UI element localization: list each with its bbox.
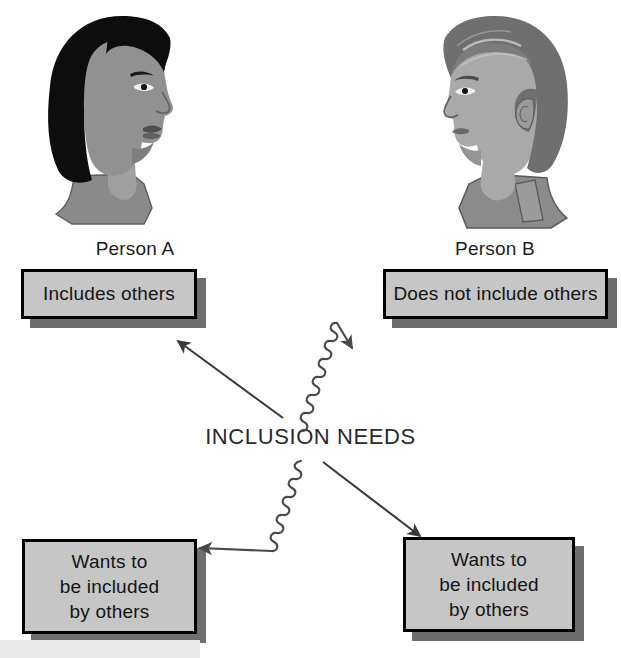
box-includes-others: Includes others	[21, 269, 197, 319]
scan-artifact	[0, 640, 200, 658]
arrow-down-left	[200, 461, 301, 551]
box-wants-to-be-included-left-text: Wants tobe includedby others	[54, 549, 165, 624]
center-label: INCLUSION NEEDS	[0, 424, 621, 450]
box-wants-to-be-included-left: Wants tobe includedby others	[22, 539, 197, 634]
box-does-not-include-others-text: Does not include others	[387, 281, 603, 306]
person-b-label: Person B	[415, 238, 575, 260]
arrow-up-right	[301, 323, 352, 431]
person-a-label: Person A	[55, 238, 215, 260]
box-includes-others-text: Includes others	[37, 281, 181, 306]
woman-profile-facing-right-icon	[12, 8, 227, 233]
box-does-not-include-others: Does not include others	[383, 269, 608, 319]
box-wants-to-be-included-right-text: Wants tobe includedby others	[433, 547, 544, 622]
box-wants-to-be-included-right: Wants tobe includedby others	[403, 537, 575, 632]
man-profile-facing-left-icon	[392, 8, 607, 233]
arrow-up-left	[178, 341, 283, 418]
arrow-down-right	[323, 462, 420, 536]
inclusion-needs-diagram: Person A Person B Includes others Does n…	[0, 0, 621, 658]
